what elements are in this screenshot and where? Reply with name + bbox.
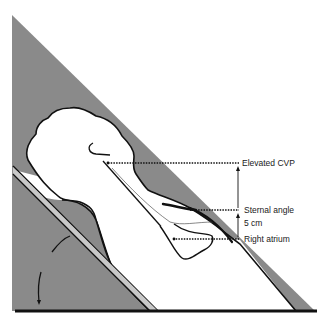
label-sternal-angle: Sternal angle: [244, 206, 294, 215]
five-cm-arrowhead-icon: [236, 213, 240, 218]
label-right-atrium: Right atrium: [244, 235, 290, 244]
label-elevated-cvp: Elevated CVP: [242, 159, 295, 168]
right-atrium-point: [173, 238, 176, 241]
label-distance: 5 cm: [244, 219, 262, 228]
cvp-height-arrowhead-icon: [236, 166, 240, 171]
elevated-cvp-point: [107, 162, 110, 165]
